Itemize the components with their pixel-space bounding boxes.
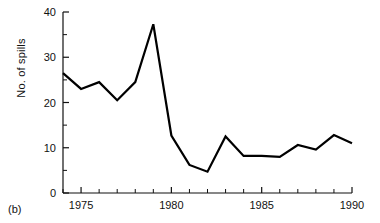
y-tick-label: 30 [44, 51, 56, 63]
panel-caption: (b) [8, 203, 21, 215]
y-tick-label: 10 [44, 142, 56, 154]
x-tick-label: 1980 [159, 199, 183, 211]
y-tick-label: 20 [44, 97, 56, 109]
y-axis-title: No. of spills [15, 3, 27, 133]
y-tick-label: 40 [44, 6, 56, 18]
x-tick-label: 1985 [249, 199, 273, 211]
data-series-line [63, 24, 352, 172]
y-tick-label: 0 [50, 187, 56, 199]
y-axis-tick-labels: 010203040 [44, 6, 56, 199]
x-axis-group: 1975198019851990 [63, 187, 364, 211]
figure-panel-b: No. of spills 010203040 1975198019851990… [0, 0, 380, 223]
x-axis-tick-labels: 1975198019851990 [69, 199, 364, 211]
y-axis-group: 010203040 [44, 6, 69, 199]
x-tick-label: 1975 [69, 199, 93, 211]
x-tick-label: 1990 [340, 199, 364, 211]
line-chart-plot: 010203040 1975198019851990 [0, 0, 380, 223]
y-axis-major-ticks [63, 12, 69, 193]
x-axis-major-ticks [81, 187, 352, 193]
